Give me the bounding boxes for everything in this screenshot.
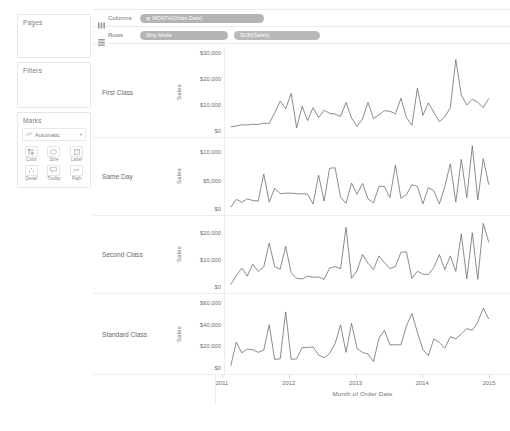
x-tick-mark: [356, 375, 357, 378]
y-axis-title-text: Sales: [176, 84, 182, 100]
row-header-same-day[interactable]: Same Day: [93, 138, 174, 215]
y-tick-label: $10,000: [200, 149, 221, 155]
pill-ship-mode-text: Ship Mode: [146, 32, 172, 38]
x-tick-mark: [289, 375, 290, 378]
line-chart-icon: [26, 132, 32, 138]
y-tick-label: $0: [215, 284, 221, 290]
pill-month-order-date-text: MONTH(Order Date): [152, 15, 202, 21]
line-plot-standard-class[interactable]: [224, 294, 510, 374]
marks-card[interactable]: Marks Automatic ▾ Color: [17, 112, 91, 188]
filters-card[interactable]: Filters: [17, 62, 91, 108]
pane-row: Second ClassSales$0$10,000$20,000: [93, 216, 510, 294]
marks-button-tooltip-label: Tooltip: [47, 177, 60, 182]
pill-ship-mode[interactable]: Ship Mode: [140, 31, 228, 40]
row-header-standard-class[interactable]: Standard Class: [93, 294, 174, 374]
color-icon: [25, 146, 38, 157]
pill-sum-sales-text: SUM(Sales): [240, 32, 269, 38]
x-tick-mark: [222, 375, 223, 378]
marks-type-dropdown[interactable]: Automatic ▾: [22, 128, 86, 141]
y-axis-title: Sales: [174, 294, 184, 374]
y-axis-title: Sales: [174, 47, 184, 137]
visualization-area: First ClassSales$0$10,000$20,000$30,000S…: [93, 47, 510, 431]
pane-row: Same DaySales$0$5,000$10,000: [93, 138, 510, 216]
columns-shelf[interactable]: Columns ▦ MONTH(Order Date): [93, 9, 510, 27]
line-plot-first-class[interactable]: [224, 47, 510, 137]
y-axis-title-text: Sales: [176, 326, 182, 342]
marks-button-detail-label: Detail: [25, 177, 37, 182]
rows-shelf[interactable]: Rows Ship Mode SUM(Sales): [93, 27, 510, 44]
marks-button-label[interactable]: T Label: [65, 146, 88, 163]
pane-row: Standard ClassSales$0$20,000$40,000$60,0…: [93, 294, 510, 375]
marks-type-label: Automatic: [35, 132, 77, 138]
x-axis: 20112012201320142015 Month of Order Date: [93, 375, 510, 405]
tableau-worksheet: Pages Filters Marks Automatic ▾ Color: [0, 0, 510, 431]
svg-text:T: T: [76, 150, 78, 154]
y-tick-label: $60,000: [200, 300, 221, 306]
y-axis-title-text: Sales: [176, 168, 182, 184]
marks-button-label-label: Label: [71, 158, 82, 163]
pane-row: First ClassSales$0$10,000$20,000$30,000: [93, 47, 510, 138]
columns-shelf-icon: [98, 15, 105, 22]
y-axis-ticks: $0$10,000$20,000: [184, 216, 224, 293]
y-tick-label: $30,000: [200, 50, 221, 56]
marks-button-color[interactable]: Color: [20, 146, 43, 163]
x-tick-label: 2015: [483, 380, 496, 386]
chevron-down-icon[interactable]: ▾: [80, 132, 82, 137]
x-axis-spacer: [93, 375, 215, 405]
y-tick-label: $0: [215, 206, 221, 212]
y-tick-label: $20,000: [200, 343, 221, 349]
pages-card-title: Pages: [18, 15, 90, 26]
row-header-second-class[interactable]: Second Class: [93, 216, 174, 293]
columns-shelf-label: Columns: [108, 15, 140, 21]
y-axis-ticks: $0$20,000$40,000$60,000: [184, 294, 224, 374]
row-header-first-class[interactable]: First Class: [93, 47, 174, 137]
small-multiple-panes: First ClassSales$0$10,000$20,000$30,000S…: [93, 47, 510, 375]
y-axis-title: Sales: [174, 216, 184, 293]
marks-button-path[interactable]: Path: [65, 165, 88, 182]
label-icon: T: [70, 146, 83, 157]
marks-button-tooltip[interactable]: Tooltip: [43, 165, 66, 182]
y-axis-ticks: $0$10,000$20,000$30,000: [184, 47, 224, 137]
y-tick-label: $0: [215, 365, 221, 371]
pill-sum-sales[interactable]: SUM(Sales): [234, 31, 320, 40]
marks-button-size[interactable]: Size: [43, 146, 66, 163]
x-tick-label: 2013: [349, 380, 362, 386]
marks-button-size-label: Size: [50, 158, 59, 163]
x-tick-mark: [489, 375, 490, 378]
x-tick-label: 2011: [216, 380, 228, 386]
y-tick-label: $10,000: [200, 257, 221, 263]
pill-month-order-date[interactable]: ▦ MONTH(Order Date): [140, 14, 264, 23]
y-tick-label: $20,000: [200, 230, 221, 236]
y-tick-label: $40,000: [200, 322, 221, 328]
date-pill-icon: ▦: [146, 16, 150, 21]
marks-button-detail[interactable]: Detail: [20, 165, 43, 182]
marks-buttons: Color Size T Label: [20, 146, 88, 181]
tooltip-icon: [47, 165, 60, 176]
marks-button-color-label: Color: [26, 158, 37, 163]
x-tick-label: 2012: [282, 380, 295, 386]
line-plot-second-class[interactable]: [224, 216, 510, 293]
line-plot-same-day[interactable]: [224, 138, 510, 215]
pages-card[interactable]: Pages: [17, 14, 91, 58]
y-tick-label: $20,000: [200, 76, 221, 82]
detail-icon: [25, 165, 38, 176]
y-tick-label: $5,000: [203, 178, 221, 184]
size-icon: [47, 146, 60, 157]
x-tick-mark: [422, 375, 423, 378]
y-tick-label: $10,000: [200, 102, 221, 108]
left-sidebar: Pages Filters Marks Automatic ▾ Color: [0, 0, 93, 431]
worksheet-main: Columns ▦ MONTH(Order Date) Rows Ship Mo…: [93, 0, 510, 431]
y-axis-title: Sales: [174, 138, 184, 215]
marks-button-path-label: Path: [72, 177, 81, 182]
y-axis-ticks: $0$5,000$10,000: [184, 138, 224, 215]
y-tick-label: $0: [215, 128, 221, 134]
marks-card-title: Marks: [18, 113, 90, 124]
path-icon: [70, 165, 83, 176]
filters-card-title: Filters: [18, 63, 90, 74]
rows-shelf-icon: [98, 32, 105, 39]
rows-shelf-label: Rows: [108, 32, 140, 38]
y-axis-title-text: Sales: [176, 246, 182, 262]
x-tick-label: 2014: [416, 380, 429, 386]
x-axis-title: Month of Order Date: [215, 390, 510, 397]
